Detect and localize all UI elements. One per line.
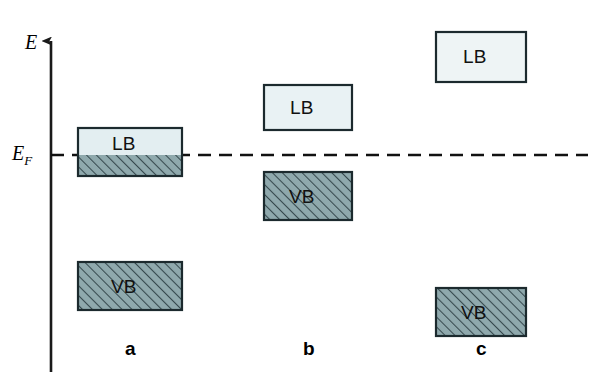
- band-c-vb: [436, 288, 526, 336]
- fermi-level-label: EF: [12, 142, 32, 169]
- band-a-vb: [78, 262, 182, 310]
- column-label-a: a: [125, 338, 136, 360]
- fermi-level-label-sub: F: [24, 153, 32, 168]
- diagram-canvas: [0, 0, 601, 386]
- band-c-lb: [436, 32, 526, 82]
- column-label-c: c: [476, 338, 487, 360]
- energy-axis-label-text: E: [25, 31, 37, 53]
- band-b-lb: [264, 85, 352, 130]
- energy-axis-label: E: [25, 31, 37, 54]
- column-label-b: b: [303, 338, 315, 360]
- band-a-lb: [78, 128, 182, 176]
- band-b-vb: [264, 172, 352, 220]
- band-diagram-figure: E EF LB VB LB VB LB VB a b c: [0, 0, 601, 386]
- fermi-level-label-main: E: [12, 142, 24, 164]
